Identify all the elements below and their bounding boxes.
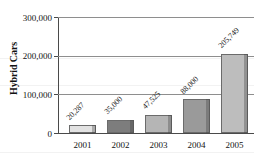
x-label-2005: 2005: [217, 140, 252, 150]
x-label-2001: 2001: [65, 140, 100, 150]
bar-side-shade: [244, 54, 248, 134]
y-tick-label: 100,000: [8, 91, 52, 100]
y-tick-label: 300,000: [8, 14, 52, 23]
bar-slot-2005: 205,749: [221, 17, 248, 133]
bar-2002[interactable]: [107, 120, 134, 134]
bar-2004[interactable]: [183, 99, 210, 133]
bar-value-label-2003: 47,525: [141, 90, 162, 111]
y-axis-tick-labels: 300,000 200,000 100,000 0: [8, 0, 52, 161]
bar-slot-2004: 88,000: [183, 17, 210, 133]
y-tick-label: 200,000: [8, 52, 52, 61]
plot-area: 20,287 35,000 47,525: [58, 17, 254, 134]
hybrid-cars-bar-chart: Hybrid Cars 300,000 200,000 100,000 0 20…: [0, 0, 254, 161]
bars-layer: 20,287 35,000 47,525: [58, 17, 254, 134]
x-label-2002: 2002: [103, 140, 138, 150]
x-axis-category-labels: 2001 2002 2003 2004 2005: [58, 140, 254, 156]
bar-2001[interactable]: [69, 125, 96, 133]
bar-value-label-2004: 88,000: [179, 75, 200, 96]
bar-value-label-2005: 205,749: [217, 26, 241, 50]
x-label-2003: 2003: [141, 140, 176, 150]
bar-slot-2003: 47,525: [145, 17, 172, 133]
bar-value-label-2002: 35,000: [103, 95, 124, 116]
bar-value-label-2001: 20,287: [65, 101, 86, 122]
bar-slot-2001: 20,287: [69, 17, 96, 133]
bar-2003[interactable]: [145, 115, 172, 133]
y-tick-label: 0: [8, 130, 52, 139]
bar-side-shade: [206, 99, 210, 133]
bar-slot-2002: 35,000: [107, 17, 134, 133]
x-label-2004: 2004: [179, 140, 214, 150]
bar-2005[interactable]: [221, 54, 248, 134]
bar-side-shade: [168, 115, 172, 133]
bar-side-shade: [130, 120, 134, 134]
bar-side-shade: [92, 125, 96, 133]
